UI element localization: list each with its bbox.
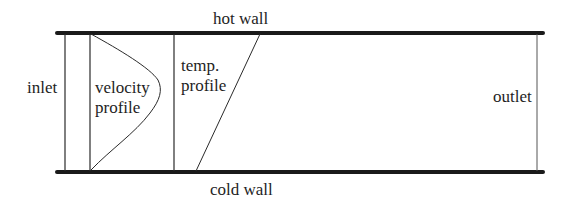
hot-wall-label: hot wall: [213, 9, 268, 29]
temp-profile-label-line1: temp.: [181, 56, 251, 76]
channel-diagram: [0, 0, 569, 207]
inlet-label: inlet: [27, 78, 57, 98]
temp-profile-line: [196, 34, 260, 171]
temp-profile-label: temp. profile: [181, 56, 251, 96]
velocity-profile-label-line2: profile: [95, 98, 165, 118]
cold-wall-label: cold wall: [210, 180, 273, 200]
temp-profile-label-line2: profile: [181, 76, 251, 96]
velocity-profile-label-line1: velocity: [95, 78, 165, 98]
outlet-label: outlet: [493, 87, 532, 107]
velocity-profile-label: velocity profile: [95, 78, 165, 118]
